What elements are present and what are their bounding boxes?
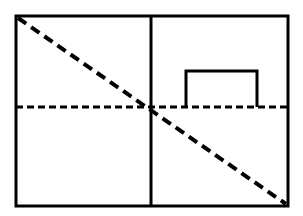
diagram-canvas (0, 0, 303, 216)
diagram-svg (0, 0, 303, 216)
